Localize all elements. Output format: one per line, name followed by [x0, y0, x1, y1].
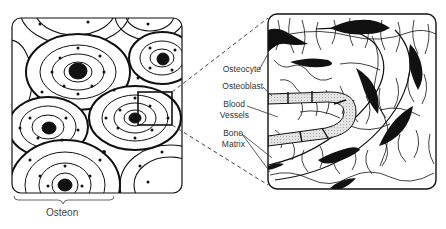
osteon-brace [14, 196, 114, 204]
osteon-right-top [129, 32, 195, 84]
label-matrix: Matrix [205, 139, 245, 149]
label-osteoblast: Osteoblast [205, 81, 263, 91]
label-bone: Bone [205, 128, 243, 138]
label-blood: Blood [205, 99, 245, 109]
label-osteon: Osteon [46, 207, 78, 218]
label-osteocyte: Osteocyte [205, 64, 261, 74]
label-vessels: Vessels [205, 110, 249, 120]
magnified-panel [268, 14, 436, 190]
osteon-panel [0, 0, 220, 229]
